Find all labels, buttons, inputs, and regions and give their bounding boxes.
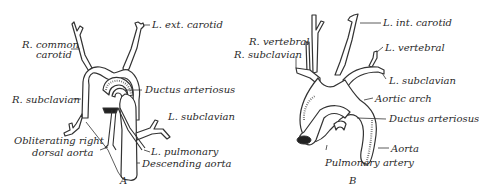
label-r-subclavian-b: R. subclavian: [234, 49, 302, 60]
label-obliterating-line2: dorsal aorta: [32, 147, 93, 158]
label-l-vertebral: L. vertebral: [385, 42, 445, 53]
label-aorta: Aorta: [391, 143, 419, 154]
label-l-pulmonary: L. pulmonary: [151, 146, 218, 157]
figure-b-caption: B: [349, 175, 356, 186]
label-ductus-arteriosus-b: Ductus arteriosus: [389, 113, 479, 124]
figure-a-caption: A: [120, 175, 127, 186]
label-r-subclavian-a: R. subclavian: [12, 94, 80, 105]
label-r-vertebral: R. vertebral: [249, 36, 310, 47]
label-obliterating-line1: Obliterating right: [14, 135, 104, 146]
label-l-subclavian-a: L. subclavian: [168, 111, 235, 122]
label-ductus-arteriosus-a: Ductus arteriosus: [145, 84, 235, 95]
label-pulmonary-artery: Pulmonary artery: [325, 157, 414, 168]
label-l-int-carotid: L. int. carotid: [383, 17, 452, 28]
label-descending-aorta: Descending aorta: [142, 158, 231, 169]
label-l-ext-carotid: L. ext. carotid: [152, 19, 223, 30]
label-r-common-carotid-line2: carotid: [36, 49, 72, 60]
label-aortic-arch: Aortic arch: [375, 93, 432, 104]
label-l-subclavian-b: L. subclavian: [389, 75, 456, 86]
